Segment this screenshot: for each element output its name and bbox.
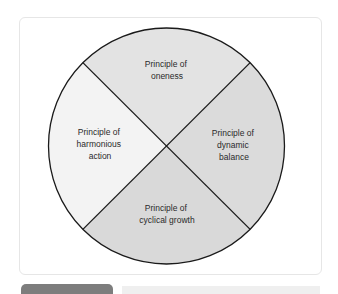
caption-bar [122, 286, 320, 294]
caption-tab [21, 284, 113, 294]
